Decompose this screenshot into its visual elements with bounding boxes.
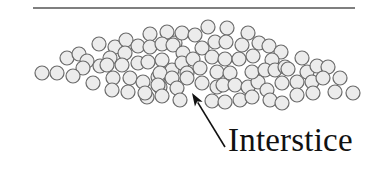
particle (115, 58, 129, 72)
particle (121, 85, 135, 99)
particle (232, 52, 246, 66)
particle (218, 52, 232, 66)
particle (275, 76, 289, 90)
particle (275, 96, 289, 110)
particle (143, 27, 157, 41)
arrowhead-icon (192, 93, 203, 106)
particle (218, 95, 232, 109)
particle (138, 86, 152, 100)
particle-packing-diagram: Interstice (0, 0, 380, 182)
particle (205, 50, 219, 64)
particle (346, 86, 360, 100)
particle (86, 76, 100, 90)
particle (306, 86, 320, 100)
particle (193, 61, 207, 75)
particle (155, 89, 169, 103)
particle (50, 66, 64, 80)
particle (281, 62, 295, 76)
particle (175, 26, 189, 40)
particle (66, 69, 80, 83)
particle (219, 35, 233, 49)
particle (245, 65, 259, 79)
particle (188, 28, 202, 42)
interstice-label: Interstice (228, 124, 353, 157)
particle (246, 49, 260, 63)
particle (245, 90, 259, 104)
particle (220, 21, 234, 35)
particle (105, 83, 119, 97)
particle (295, 51, 309, 65)
particle (328, 85, 342, 99)
particle (141, 55, 155, 69)
particle (205, 94, 219, 108)
particle (316, 71, 330, 85)
particle (235, 38, 249, 52)
particle (100, 58, 114, 72)
particle (290, 88, 304, 102)
particle (210, 65, 224, 79)
particle (173, 93, 187, 107)
particle (333, 71, 347, 85)
particle (201, 20, 215, 34)
particle (195, 76, 209, 90)
particle-bed (35, 20, 360, 110)
particle (228, 78, 242, 92)
particle (123, 71, 137, 85)
particle (92, 37, 106, 51)
particle (35, 66, 49, 80)
